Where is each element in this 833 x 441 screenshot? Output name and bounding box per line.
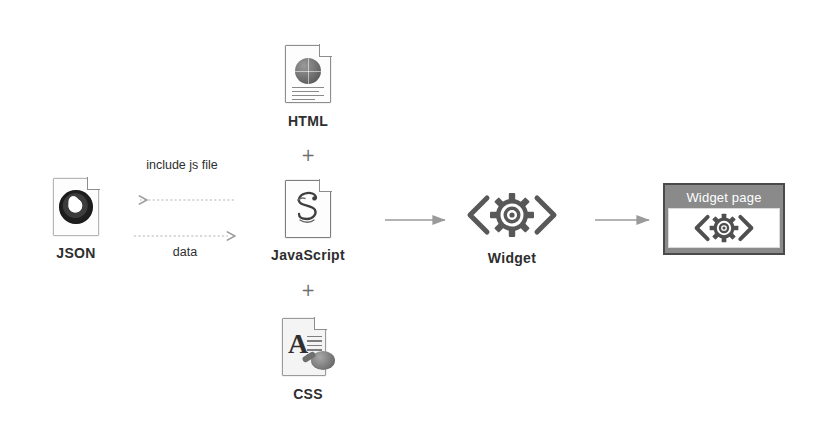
- javascript-file-icon: [285, 180, 331, 238]
- widget-page-canvas: [668, 208, 780, 248]
- node-css[interactable]: A CSS: [262, 318, 354, 402]
- edge-include-js-file: [130, 192, 238, 208]
- node-widget-page[interactable]: Widget page: [663, 183, 785, 255]
- text-lines-decor: [292, 87, 324, 103]
- node-css-label: CSS: [262, 386, 354, 402]
- edge-label-include-js-file: include js file: [122, 158, 242, 172]
- diagram-canvas: JSON HTML +: [0, 0, 833, 441]
- node-javascript-label: JavaScript: [262, 247, 354, 263]
- edge-widget-to-page: [595, 212, 663, 228]
- node-html-label: HTML: [262, 113, 354, 129]
- html-file-icon: [285, 45, 331, 103]
- edge-label-data: data: [125, 245, 245, 259]
- plus-separator-js-css: +: [298, 280, 318, 300]
- paintbrush-icon: [311, 351, 335, 370]
- node-json-label: JSON: [30, 245, 122, 261]
- widget-gear-icon: [452, 192, 572, 238]
- node-json[interactable]: JSON: [30, 178, 122, 261]
- file-corner-fold: [319, 44, 332, 57]
- node-widget-label: Widget: [452, 250, 572, 266]
- widget-page-titlebar: Widget page: [668, 188, 780, 208]
- file-corner-fold: [87, 177, 100, 190]
- json-file-icon: [53, 178, 99, 236]
- node-widget[interactable]: Widget: [452, 192, 572, 266]
- css-file-icon: A: [282, 318, 334, 376]
- edge-data: [130, 228, 238, 244]
- node-html[interactable]: HTML: [262, 45, 354, 129]
- widget-gear-icon: [682, 213, 766, 243]
- json-ring-glyph: [59, 190, 93, 224]
- letter-a-icon: A: [288, 330, 308, 358]
- plus-separator-html-js: +: [298, 145, 318, 165]
- globe-icon: [295, 58, 321, 84]
- node-javascript[interactable]: JavaScript: [262, 180, 354, 263]
- edge-js-to-widget: [385, 212, 457, 228]
- file-corner-fold: [314, 317, 327, 330]
- file-corner-fold: [319, 179, 332, 192]
